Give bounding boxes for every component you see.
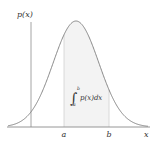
integral-lower-limit: a [73,102,76,107]
integral-upper-limit: b [77,86,80,91]
integral-integrand: p(x)dx [80,94,102,102]
interval-lower-label: a [62,130,67,139]
shaded-area [64,21,109,127]
density-diagram: p(x) x a b ∫ b a p(x)dx [0,0,155,142]
y-axis-label: p(x) [17,10,33,19]
interval-upper-label: b [107,130,112,139]
x-axis-label: x [144,130,149,139]
